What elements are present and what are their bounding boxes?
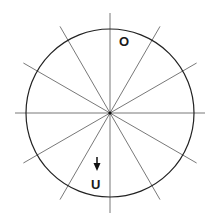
down-arrow-icon: [94, 157, 101, 171]
circle-diagram: O U: [0, 0, 218, 221]
label-top-o: O: [119, 34, 129, 49]
label-bottom-u: U: [91, 177, 100, 192]
center-point: [108, 111, 111, 114]
